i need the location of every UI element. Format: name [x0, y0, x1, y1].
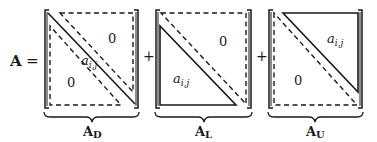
lower-entries-label: ai,j	[173, 71, 190, 88]
main-diagonal	[48, 13, 135, 104]
plus-sign: +	[256, 48, 268, 64]
matrix-label: AD	[82, 124, 102, 140]
matrix-diagonal: 0 0 ai,j AD	[44, 10, 139, 140]
underbrace	[155, 112, 252, 122]
plus-sign: +	[143, 48, 155, 64]
matrix-label: AU	[305, 124, 325, 140]
lhs-matrix-label: A	[9, 52, 22, 70]
lower-zero-triangle	[274, 13, 357, 105]
matrix-label: AL	[194, 124, 212, 140]
matrix-upper: ai,j 0 AU	[268, 10, 363, 140]
matrix-lower: 0 ai,j AL	[155, 10, 252, 140]
upper-zero-label: 0	[219, 34, 227, 49]
underbrace	[44, 112, 139, 122]
upper-zero-label: 0	[108, 31, 116, 46]
upper-entries-label: ai,j	[327, 31, 344, 48]
equals-sign: =	[26, 52, 39, 70]
lower-zero-label: 0	[294, 73, 302, 88]
upper-zero-triangle	[161, 13, 246, 104]
matrix-splitting-diagram: A = 0 0 ai,j AD +	[0, 0, 377, 142]
underbrace	[268, 112, 363, 122]
lower-zero-label: 0	[67, 75, 75, 90]
